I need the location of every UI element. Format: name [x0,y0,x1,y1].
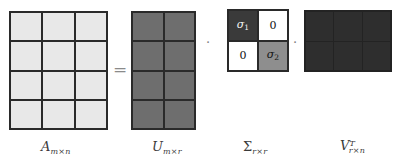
matrix-vt-label-symbol: V [340,138,349,153]
sigma-1-symbol: σ1 [237,19,249,32]
matrix-a-cell [76,42,106,69]
matrix-a-label-subscript: m×n [50,147,70,156]
matrix-u-cell [165,101,195,128]
matrix-u-cell [133,13,163,40]
matrix-vt-cell [306,12,333,41]
matrix-sigma-label: Σr×r [243,140,267,156]
matrix-a-cell [11,13,41,40]
matrix-sigma-cell-zero-bottom-left: 0 [229,42,257,71]
equals-sign: = [113,61,127,78]
matrix-a [9,11,108,130]
matrix-vt-label-subscript: r×n [349,146,366,155]
multiplication-dot-2: · [293,36,297,49]
matrix-vt-cell [306,42,333,71]
matrix-sigma-label-subscript: r×r [252,147,267,156]
matrix-vt-cell [334,42,361,71]
matrix-u-label-symbol: U [152,139,163,154]
matrix-sigma: σ1 0 0 σ2 [227,9,289,72]
matrix-sigma-cell-zero-top-right: 0 [259,11,287,40]
matrix-a-cell [76,72,106,99]
matrix-u-cell [165,72,195,99]
matrix-u-cell [165,42,195,69]
matrix-a-cell [76,13,106,40]
sigma-2-symbol: σ2 [267,49,279,62]
matrix-v-transpose [304,10,392,72]
matrix-a-cell [11,101,41,128]
multiplication-dot-1: · [206,36,210,49]
matrix-a-cell [43,101,73,128]
matrix-a-label-symbol: A [41,139,50,154]
matrix-a-cell [11,72,41,99]
matrix-a-cell [43,72,73,99]
matrix-vt-cell [363,42,390,71]
matrix-a-cell [43,13,73,40]
matrix-u [131,11,196,130]
matrix-a-cell [43,42,73,69]
matrix-u-cell [133,42,163,69]
matrix-a-cell [76,101,106,128]
matrix-sigma-cell-sigma2: σ2 [259,42,287,71]
matrix-a-cell [11,42,41,69]
matrix-u-cell [133,101,163,128]
matrix-sigma-label-symbol: Σ [243,139,252,154]
svd-diagram-canvas: = · σ1 0 0 σ2 · Am×n Um×r Σr×r VT [0,0,409,163]
matrix-vt-cell [363,12,390,41]
matrix-u-cell [133,72,163,99]
matrix-u-cell [165,13,195,40]
matrix-sigma-cell-sigma1: σ1 [229,11,257,40]
matrix-vt-cell [334,12,361,41]
matrix-a-label: Am×n [41,140,71,156]
matrix-v-transpose-label: VTr×n [340,139,365,155]
matrix-u-label-subscript: m×r [163,147,182,156]
matrix-u-label: Um×r [152,140,182,156]
